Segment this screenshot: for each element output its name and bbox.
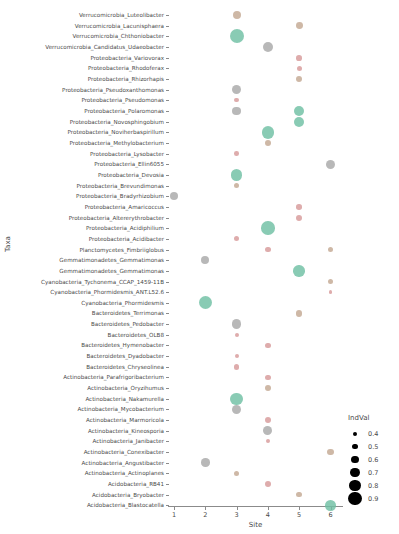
y-tick-mark bbox=[166, 271, 169, 272]
legend-label: 0.4 bbox=[368, 430, 378, 438]
legend-entry: 0.5 bbox=[344, 440, 399, 453]
bubble-point bbox=[296, 215, 302, 221]
taxa-label: Proteobacteria_Ellin6055 bbox=[94, 161, 164, 167]
y-tick-mark bbox=[166, 377, 169, 378]
bubble-point bbox=[234, 471, 240, 477]
taxa-label: Actinobacteria_Angustibacter bbox=[82, 460, 164, 466]
bubble-point bbox=[232, 107, 240, 115]
y-tick-mark bbox=[166, 36, 169, 37]
bubble-point bbox=[263, 426, 272, 435]
taxa-label: Acidobacteria_RB41 bbox=[108, 481, 164, 487]
taxa-label: Bacteroidetes_Hymenobacter bbox=[81, 342, 164, 348]
legend-entry: 0.4 bbox=[344, 427, 399, 440]
y-tick-mark bbox=[166, 228, 169, 229]
taxa-label: Bacteroidetes_Dyadobacter bbox=[87, 353, 164, 359]
taxa-label: Actinobacteria_Mycobacterium bbox=[78, 406, 164, 412]
taxa-label: Proteobacteria_Lysobacter bbox=[90, 151, 164, 157]
y-tick-mark bbox=[166, 505, 169, 506]
bubble-plot: 123456 Verrucomicrobia_LuteolibacterVerr… bbox=[0, 0, 399, 534]
bubble-point bbox=[232, 405, 241, 414]
x-tick-label-3: 3 bbox=[230, 511, 244, 519]
bubble-point bbox=[234, 236, 239, 241]
bubble-point bbox=[235, 333, 239, 337]
x-tick-label-1: 1 bbox=[167, 511, 181, 519]
y-tick-mark bbox=[166, 335, 169, 336]
y-tick-mark bbox=[166, 495, 169, 496]
bubble-point bbox=[327, 449, 334, 456]
taxa-label: Proteobacteria_Bradyrhizobium bbox=[76, 193, 164, 199]
bubble-point bbox=[266, 439, 270, 443]
bubble-point bbox=[232, 85, 241, 94]
bubble-point bbox=[262, 126, 275, 139]
taxa-label: Verrucomicrobia_Candidatus_Udaeobacter bbox=[45, 44, 164, 50]
bubble-point bbox=[328, 279, 334, 285]
y-tick-mark bbox=[166, 175, 169, 176]
y-tick-mark bbox=[166, 47, 169, 48]
taxa-label: Verrucomicrobia_Luteolibacter bbox=[79, 12, 164, 18]
y-tick-mark bbox=[166, 186, 169, 187]
taxa-label: Gemmatimonadetes_Gemmatimonas bbox=[59, 268, 164, 274]
legend-dot-wrap bbox=[344, 432, 366, 436]
taxa-label: Proteobacteria_Amaricoccus bbox=[85, 204, 164, 210]
taxa-label: Planctomycetes_Fimbriiglobus bbox=[79, 247, 164, 253]
bubble-point bbox=[265, 481, 271, 487]
bubble-point bbox=[294, 117, 304, 127]
bubble-point bbox=[326, 160, 335, 169]
x-tick-label-2: 2 bbox=[198, 511, 212, 519]
bubble-point bbox=[233, 11, 241, 19]
legend-entry: 0.6 bbox=[344, 453, 399, 466]
taxa-label: Proteobacteria_Methylobacterium bbox=[69, 140, 164, 146]
bubble-point bbox=[263, 42, 273, 52]
legend-dot-wrap bbox=[344, 456, 366, 464]
legend-label: 0.9 bbox=[368, 495, 378, 503]
y-tick-mark bbox=[166, 79, 169, 80]
legend-dot-wrap bbox=[344, 468, 366, 478]
y-tick-mark bbox=[166, 26, 169, 27]
bubble-point bbox=[293, 265, 304, 276]
x-tick-label-6: 6 bbox=[324, 511, 338, 519]
taxa-label: Acidobacteria_Blastocatella bbox=[87, 502, 164, 508]
taxa-label: Proteobacteria_Pseudoxanthomonas bbox=[62, 87, 164, 93]
bubble-point bbox=[234, 364, 240, 370]
taxa-label: Proteobacteria_Variovorax bbox=[90, 55, 164, 61]
y-tick-mark bbox=[166, 132, 169, 133]
bubble-point bbox=[234, 183, 240, 189]
bubble-point bbox=[234, 151, 239, 156]
legend-entry: 0.7 bbox=[344, 466, 399, 479]
legend-title: IndVal bbox=[344, 414, 399, 422]
bubble-point bbox=[329, 290, 333, 294]
taxa-label: Bacteroidetes_OLB8 bbox=[108, 332, 164, 338]
y-tick-mark bbox=[166, 282, 169, 283]
bubble-point bbox=[297, 66, 302, 71]
x-axis-line bbox=[168, 506, 343, 507]
y-tick-mark bbox=[166, 218, 169, 219]
taxa-label: Proteobacteria_Pseudomonas bbox=[81, 97, 164, 103]
taxa-label: Actinobacteria_Marmoricola bbox=[86, 417, 164, 423]
y-tick-mark bbox=[166, 313, 169, 314]
taxa-label: Actinobacteria_Nakamurella bbox=[85, 396, 164, 402]
bubble-point bbox=[232, 319, 241, 328]
x-tick-label-5: 5 bbox=[292, 511, 306, 519]
bubble-point bbox=[230, 393, 242, 405]
y-tick-mark bbox=[166, 122, 169, 123]
bubble-point bbox=[230, 29, 244, 43]
taxa-label: Actinobacteria_Parafrigoribacterium bbox=[63, 374, 164, 380]
legend-dot-wrap bbox=[344, 492, 366, 506]
bubble-point bbox=[296, 76, 302, 82]
legend-label: 0.7 bbox=[368, 469, 378, 477]
legend-dot bbox=[349, 480, 361, 492]
taxa-label: Proteobacteria_Brevundimonas bbox=[77, 183, 164, 189]
bubble-point bbox=[296, 310, 302, 316]
legend-entry: 0.9 bbox=[344, 492, 399, 505]
y-tick-mark bbox=[166, 15, 169, 16]
taxa-label: Actinobacteria_Kineosporia bbox=[88, 428, 164, 434]
y-tick-mark bbox=[166, 431, 169, 432]
bubble-point bbox=[265, 417, 271, 423]
y-tick-mark bbox=[166, 367, 169, 368]
taxa-label: Acidobacteria_Bryobacter bbox=[92, 492, 164, 498]
x-tick-mark bbox=[237, 507, 238, 510]
bubble-point bbox=[296, 492, 302, 498]
bubble-point bbox=[296, 22, 303, 29]
bubble-point bbox=[201, 458, 209, 466]
legend: IndVal 0.40.50.60.70.80.9 bbox=[344, 414, 399, 505]
